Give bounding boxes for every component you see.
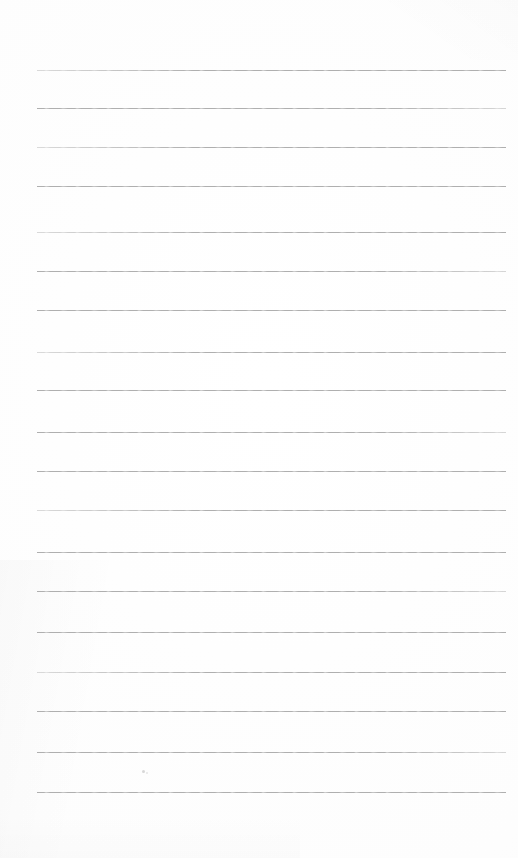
ruled-line	[37, 432, 506, 433]
ruled-line	[37, 510, 506, 511]
ruled-line	[37, 752, 506, 753]
ruled-line	[37, 147, 506, 148]
ruled-line	[37, 672, 506, 673]
ruled-line	[37, 552, 506, 553]
dust-speck-secondary-icon	[146, 772, 148, 774]
ruled-line	[37, 271, 506, 272]
ruled-line	[37, 352, 506, 353]
ruled-lines-group	[0, 0, 518, 858]
ruled-line	[37, 232, 506, 233]
ruled-line	[37, 591, 506, 592]
ruled-line	[37, 632, 506, 633]
dust-speck-icon	[142, 770, 145, 773]
ruled-line	[37, 390, 506, 391]
ruled-line	[37, 70, 506, 71]
ruled-line	[37, 711, 506, 712]
notepad-page	[0, 0, 518, 858]
ruled-line	[37, 186, 506, 187]
ruled-line	[37, 471, 506, 472]
ruled-line	[37, 108, 506, 109]
ruled-line	[37, 792, 506, 793]
ruled-line	[37, 310, 506, 311]
